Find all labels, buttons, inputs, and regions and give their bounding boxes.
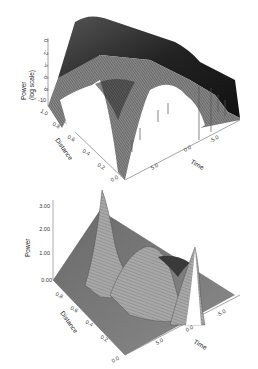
svg-text:-6: -6	[43, 74, 49, 79]
time-axis-label: Time	[190, 158, 206, 171]
z-axis-label-unit: (log scale)	[28, 70, 36, 100]
svg-text:2.00: 2.00	[39, 226, 50, 232]
svg-text:1.00: 1.00	[39, 250, 50, 256]
svg-text:0.8: 0.8	[55, 291, 65, 300]
svg-text:0.4: 0.4	[82, 148, 92, 157]
svg-text:-4: -4	[43, 62, 49, 67]
svg-text:0.0: 0.0	[110, 174, 120, 183]
svg-text:0.0: 0.0	[111, 355, 121, 364]
svg-text:0: 0	[43, 39, 49, 42]
z-axis-label: Power	[20, 81, 27, 100]
svg-text:-2: -2	[43, 50, 49, 55]
svg-text:-5.0: -5.0	[216, 308, 227, 318]
z-tick-labels: 0 -2 -4 -6 -8 -10	[38, 39, 49, 103]
svg-text:0.0: 0.0	[183, 144, 193, 153]
svg-text:-10: -10	[38, 97, 46, 103]
svg-text:5.0: 5.0	[155, 337, 165, 346]
svg-text:0.6: 0.6	[67, 134, 77, 143]
z-axis-label: Power	[24, 238, 31, 257]
log-power-surface-chart: 0 -2 -4 -6 -8 -10 Power (log scale) 1.0 …	[0, 0, 258, 185]
svg-text:3.00: 3.00	[39, 203, 50, 209]
time-axis-label: Time	[193, 338, 209, 351]
z-tick-labels: 3.00 2.00 1.00 0.00	[39, 203, 52, 283]
linear-power-surface-plot: 3.00 2.00 1.00 0.00 Power 0.8 0.6 0.4 0.…	[0, 185, 258, 369]
linear-power-surface-chart: 3.00 2.00 1.00 0.00 Power 0.8 0.6 0.4 0.…	[0, 185, 258, 369]
svg-text:-8: -8	[43, 86, 49, 91]
svg-text:0.00: 0.00	[41, 277, 52, 283]
svg-text:0.2: 0.2	[97, 162, 107, 171]
distance-axis-label: Distance	[59, 310, 79, 335]
log-power-surface-plot: 0 -2 -4 -6 -8 -10 Power (log scale) 1.0 …	[0, 0, 258, 185]
svg-text:1.0: 1.0	[40, 108, 50, 117]
